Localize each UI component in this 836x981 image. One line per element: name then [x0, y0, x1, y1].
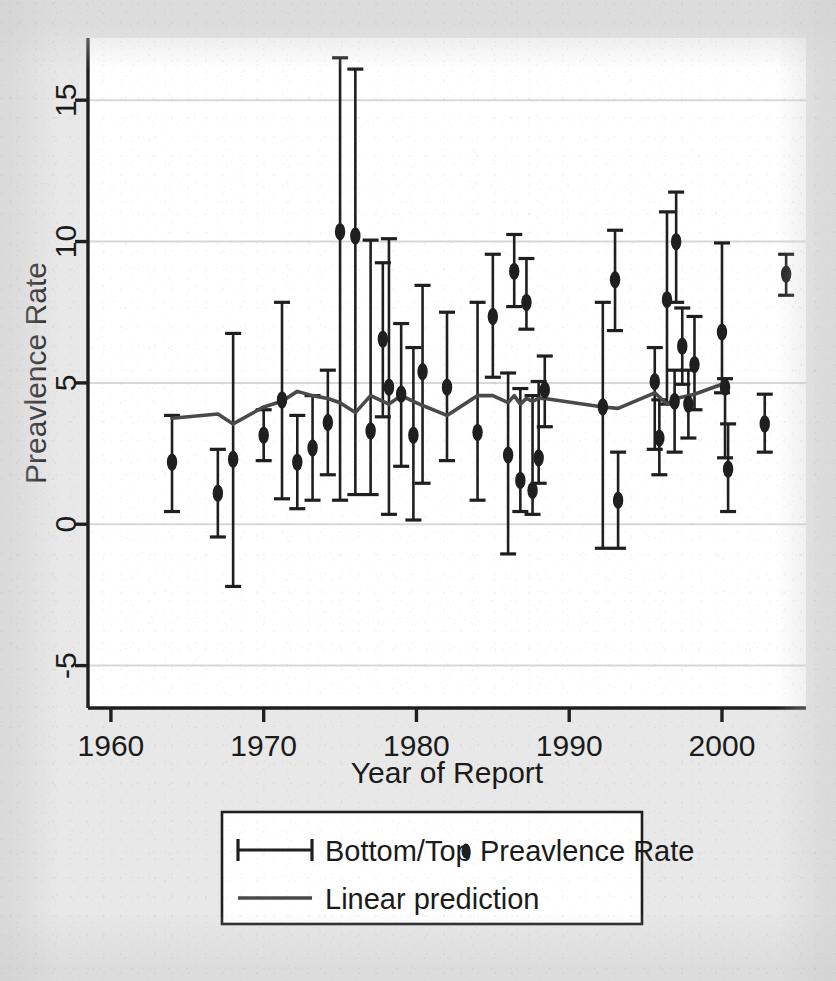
data-point-marker: [683, 395, 693, 412]
data-point-marker: [720, 379, 730, 396]
data-point-marker: [527, 482, 537, 499]
data-point-marker: [677, 338, 687, 355]
data-point-marker: [442, 379, 452, 396]
data-point-marker: [533, 449, 543, 466]
data-point-marker: [509, 263, 519, 280]
legend-label-linear-prediction: Linear prediction: [325, 883, 539, 915]
data-point-marker: [323, 414, 333, 431]
data-point-marker: [503, 446, 513, 463]
data-point-marker: [335, 223, 345, 240]
data-point-marker: [540, 381, 550, 398]
legend-label-preavlence-rate: Preavlence Rate: [480, 835, 694, 867]
data-point-marker: [167, 453, 177, 470]
data-point-marker: [521, 294, 531, 311]
data-point-marker: [365, 422, 375, 439]
x-tick-label-1960: 1960: [78, 729, 145, 762]
data-point-marker: [277, 391, 287, 408]
data-point-marker: [781, 265, 791, 282]
x-tick-label-1970: 1970: [230, 729, 297, 762]
y-tick-label-5: 5: [49, 375, 82, 392]
y-tick-label--5: -5: [49, 652, 82, 679]
data-point-marker: [515, 472, 525, 489]
data-point-marker: [760, 415, 770, 432]
x-tick-label-2000: 2000: [689, 729, 756, 762]
figure-page: -5051015 19601970198019902000 Preavlence…: [0, 0, 836, 981]
dot-key-icon: [462, 844, 471, 859]
data-point-marker: [292, 453, 302, 470]
data-point-marker: [662, 291, 672, 308]
data-point-marker: [488, 308, 498, 325]
data-point-marker: [650, 373, 660, 390]
legend-label-bottom-top: Bottom/Top: [325, 835, 472, 867]
data-point-marker: [408, 427, 418, 444]
data-point-marker: [613, 492, 623, 509]
data-point-marker: [689, 356, 699, 373]
data-point-marker: [350, 227, 360, 244]
data-point-marker: [378, 330, 388, 347]
data-point-marker: [723, 461, 733, 478]
data-point-marker: [610, 271, 620, 288]
y-tick-label-15: 15: [49, 84, 82, 117]
y-axis-title: Preavlence Rate: [19, 262, 52, 484]
chart-legend: Bottom/Top Preavlence Rate Linear predic…: [222, 812, 694, 924]
x-axis-title: Year of Report: [351, 756, 544, 789]
y-tick-label-0: 0: [49, 516, 82, 533]
data-point-marker: [384, 379, 394, 396]
data-point-marker: [671, 233, 681, 250]
data-point-marker: [258, 427, 268, 444]
data-point-marker: [213, 485, 223, 502]
data-point-marker: [669, 393, 679, 410]
legend-entry-preavlence-rate[interactable]: Preavlence Rate: [462, 835, 695, 867]
y-tick-label-10: 10: [49, 225, 82, 258]
data-point-marker: [472, 424, 482, 441]
data-point-marker: [654, 429, 664, 446]
data-point-marker: [598, 398, 608, 415]
data-point-marker: [417, 363, 427, 380]
x-tick-label-1990: 1990: [536, 729, 603, 762]
data-point-marker: [396, 386, 406, 403]
data-point-marker: [307, 439, 317, 456]
data-point-marker: [717, 323, 727, 340]
data-point-marker: [228, 451, 238, 468]
prevalence-rate-scatter-chart: -5051015 19601970198019902000 Preavlence…: [0, 0, 836, 981]
